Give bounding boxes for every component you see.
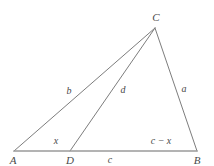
vertex-label-d: D [66, 155, 74, 166]
segment-cb [155, 28, 197, 151]
side-label-a: a [182, 84, 187, 94]
triangle-diagram: A D B C b d a x c − x c [0, 0, 214, 166]
vertex-label-a: A [10, 155, 17, 166]
cevian-label-d: d [121, 85, 126, 95]
side-label-b: b [67, 86, 72, 96]
vertex-label-b: B [194, 155, 201, 166]
segment-label-c-minus-x: c − x [151, 136, 172, 146]
segment-dc [70, 28, 155, 151]
vertex-label-c: C [152, 12, 159, 23]
segment-label-x: x [54, 136, 58, 146]
segment-ac [14, 28, 155, 151]
side-label-c: c [108, 155, 112, 165]
